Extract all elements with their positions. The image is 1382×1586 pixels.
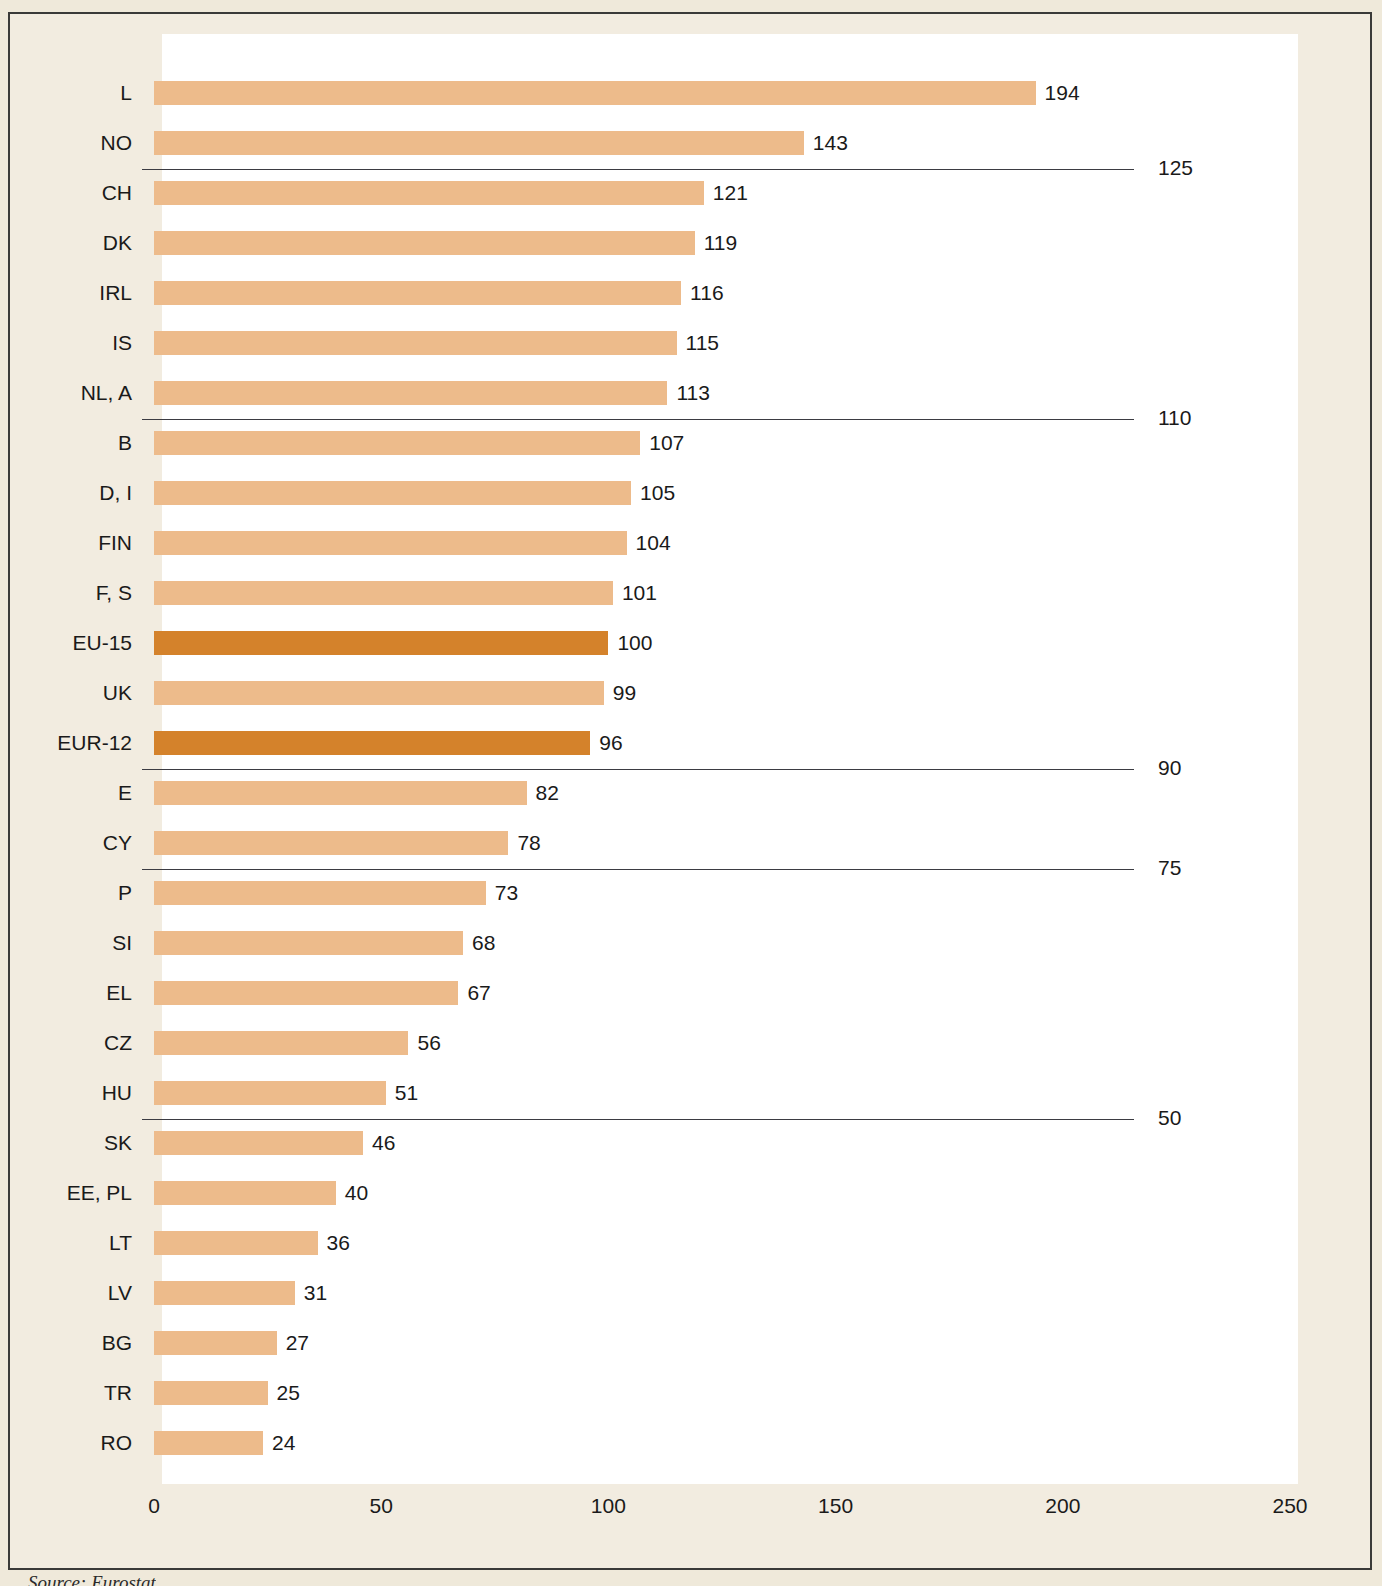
bar [154,481,631,505]
reference-line [142,769,1134,770]
bar-row: LV31 [10,1268,1370,1318]
bar [154,931,463,955]
bar [154,581,613,605]
bar-value-label: 104 [636,531,671,555]
bar-value-label: 143 [813,131,848,155]
bar-and-value: 67 [154,981,491,1005]
bar-value-label: 116 [690,281,723,305]
bar [154,1331,277,1355]
bar-and-value: 31 [154,1281,327,1305]
bar-row: DK119 [10,218,1370,268]
bar-value-label: 121 [713,181,748,205]
bar-and-value: 51 [154,1081,418,1105]
reference-line-label: 125 [1158,156,1193,180]
x-axis-tick-label: 200 [1045,1494,1080,1518]
bar-and-value: 194 [154,81,1080,105]
bar [154,781,527,805]
chart-frame: L194NO143CH121DK119IRL116IS115NL, A113B1… [8,12,1372,1570]
bar-value-label: 31 [304,1281,327,1305]
bar-value-label: 100 [617,631,652,655]
bar-category-label: EE, PL [0,1168,132,1218]
bar [154,1181,336,1205]
bar-row: D, I105 [10,468,1370,518]
bar [154,1081,386,1105]
bar-category-label: P [0,868,132,918]
x-axis-tick-label: 100 [591,1494,626,1518]
bar-category-label: SK [0,1118,132,1168]
bar-and-value: 105 [154,481,675,505]
bar-and-value: 107 [154,431,684,455]
bar [154,281,681,305]
reference-line [142,869,1134,870]
bar-value-label: 24 [272,1431,295,1455]
bar-and-value: 96 [154,731,623,755]
bar-category-label: CY [0,818,132,868]
bar [154,1381,268,1405]
reference-line-label: 50 [1158,1106,1181,1130]
bar [154,681,604,705]
bar-value-label: 194 [1045,81,1080,105]
bar-category-label: D, I [0,468,132,518]
bar-category-label: RO [0,1418,132,1468]
bar-category-label: EL [0,968,132,1018]
bar-category-label: TR [0,1368,132,1418]
bar-row: TR25 [10,1368,1370,1418]
bar-row: RO24 [10,1418,1370,1468]
bar [154,1431,263,1455]
bar-row: EE, PL40 [10,1168,1370,1218]
x-axis-tick-label: 50 [370,1494,393,1518]
bar [154,1031,408,1055]
bar-value-label: 73 [495,881,518,905]
bar-and-value: 104 [154,531,671,555]
bar-category-label: EU-15 [0,618,132,668]
bar-category-label: IRL [0,268,132,318]
bar [154,181,704,205]
bar-value-label: 68 [472,931,495,955]
bar-row: EU-15100 [10,618,1370,668]
x-axis-tick-label: 0 [148,1494,160,1518]
bar-value-label: 25 [277,1381,300,1405]
bar-and-value: 100 [154,631,652,655]
bar [154,981,458,1005]
bar-and-value: 99 [154,681,636,705]
bar-and-value: 115 [154,331,719,355]
bar-and-value: 73 [154,881,518,905]
reference-line-label: 110 [1158,406,1191,430]
bar [154,1231,318,1255]
bar [154,431,640,455]
bar-value-label: 96 [599,731,622,755]
bar-and-value: 46 [154,1131,395,1155]
bar-category-label: IS [0,318,132,368]
bar-value-label: 107 [649,431,684,455]
reference-line [142,1119,1134,1120]
bar-and-value: 116 [154,281,724,305]
bar-value-label: 113 [676,381,709,405]
bar-category-label: UK [0,668,132,718]
bar-row: FIN104 [10,518,1370,568]
bar-row: BG27 [10,1318,1370,1368]
bar-value-label: 119 [704,231,737,255]
bar-category-label: E [0,768,132,818]
bar-row: CZ56 [10,1018,1370,1068]
bar-category-label: DK [0,218,132,268]
bar-value-label: 36 [327,1231,350,1255]
bar-row: LT36 [10,1218,1370,1268]
bar-value-label: 99 [613,681,636,705]
bar-category-label: LT [0,1218,132,1268]
bar-and-value: 56 [154,1031,441,1055]
source-note: Source: Eurostat [28,1572,156,1586]
bar-value-label: 46 [372,1131,395,1155]
reference-line [142,419,1134,420]
bar [154,81,1036,105]
bar [154,131,804,155]
bar-value-label: 78 [517,831,540,855]
bar-value-label: 40 [345,1181,368,1205]
x-axis: 050100150200250 [10,1494,1370,1534]
bar-category-label: F, S [0,568,132,618]
bar-value-label: 82 [536,781,559,805]
bar [154,881,486,905]
bar-row: UK99 [10,668,1370,718]
bar [154,381,667,405]
reference-line-label: 90 [1158,756,1181,780]
bar [154,331,677,355]
